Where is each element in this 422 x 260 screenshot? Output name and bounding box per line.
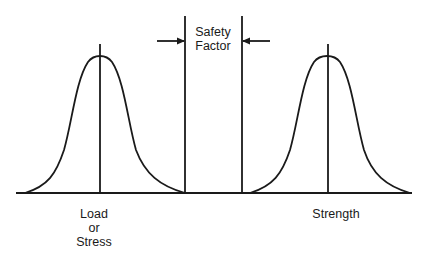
- load-label-line1: Load: [80, 207, 108, 221]
- load-label-line2: or: [88, 221, 99, 235]
- safety-factor-diagram: Safety Factor Load or Stress Strength: [0, 0, 422, 260]
- strength-label: Strength: [312, 207, 359, 221]
- load-distribution-curve: [25, 56, 185, 193]
- safety-factor-label-line2: Factor: [195, 39, 230, 53]
- load-label-line3: Stress: [76, 235, 111, 249]
- strength-distribution-curve: [250, 56, 410, 193]
- safety-factor-label-line1: Safety: [195, 25, 231, 39]
